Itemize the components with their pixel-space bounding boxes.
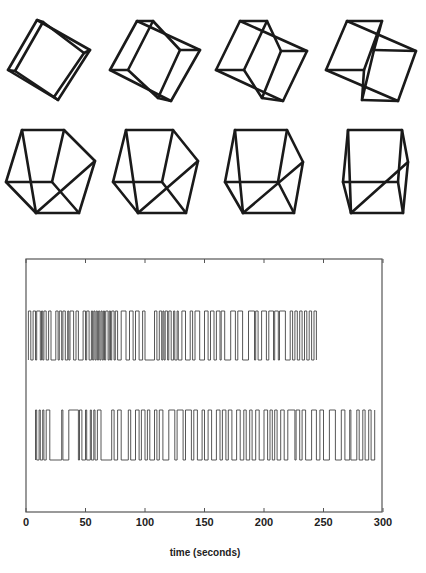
necker-cube-8 [343, 130, 408, 213]
switching-trace-1 [28, 311, 316, 360]
x-tick-label-0: 0 [23, 516, 29, 528]
plot-frame [26, 259, 382, 512]
x-axis-label: time (seconds) [170, 547, 241, 558]
x-tick-label-150: 150 [195, 516, 213, 528]
necker-cube-3 [216, 21, 307, 101]
cube-rotation-sequence [0, 0, 426, 240]
necker-cube-4 [326, 21, 416, 101]
necker-cube-5 [6, 130, 95, 213]
necker-cube-2 [110, 21, 200, 101]
necker-cube-7 [225, 130, 303, 213]
x-tick-label-250: 250 [314, 516, 332, 528]
necker-cube-6 [113, 130, 198, 213]
x-tick-label-300: 300 [374, 516, 392, 528]
x-tick-label-100: 100 [136, 516, 154, 528]
switching-trace-2 [36, 410, 375, 460]
x-tick-label-200: 200 [255, 516, 273, 528]
x-tick-label-50: 50 [79, 516, 91, 528]
necker-cube-1 [8, 20, 90, 100]
